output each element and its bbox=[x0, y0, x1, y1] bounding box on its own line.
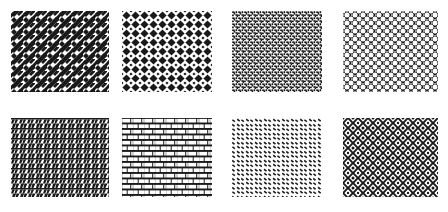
swatch-running-bond-brick[interactable] bbox=[122, 118, 212, 197]
diamond-checker-icon bbox=[122, 11, 212, 92]
zigzag-rows-icon bbox=[11, 118, 109, 197]
basketweave-diagonal-icon bbox=[11, 11, 109, 92]
sparse-diagonal-dash-icon bbox=[232, 118, 322, 197]
step-dash-dense-icon bbox=[232, 11, 322, 92]
swatch-diamond-checker[interactable] bbox=[122, 11, 212, 92]
swatch-dark-dot-grid[interactable] bbox=[343, 11, 438, 92]
swatch-step-dash-dense[interactable] bbox=[232, 11, 322, 92]
swatch-zigzag-rows[interactable] bbox=[11, 118, 109, 197]
chainlink-mesh-icon bbox=[343, 118, 438, 197]
dark-dot-grid-icon bbox=[343, 11, 438, 92]
running-bond-brick-icon bbox=[122, 118, 212, 197]
swatch-chainlink-mesh[interactable] bbox=[343, 118, 438, 197]
swatch-basketweave-diagonal[interactable] bbox=[11, 11, 109, 92]
swatch-sparse-diagonal-dash[interactable] bbox=[232, 118, 322, 197]
pattern-sheet bbox=[0, 0, 448, 212]
